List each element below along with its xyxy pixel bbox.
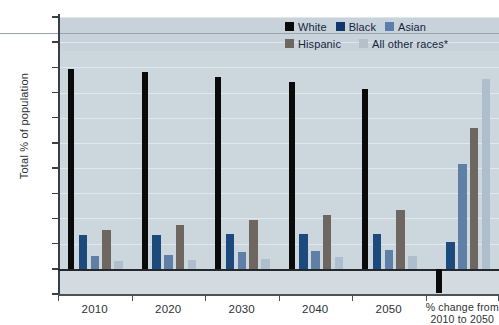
- bar-black-2010: [79, 235, 88, 269]
- bar-black-2030: [226, 234, 235, 269]
- chart-legend: White Black Asian Hispanic All other rac…: [285, 19, 495, 53]
- legend-swatch-all-other-races-icon: [359, 39, 368, 48]
- bar-all-other-races-2020: [188, 260, 197, 269]
- legend-swatch-white-icon: [285, 22, 294, 31]
- legend-label-hispanic: Hispanic: [298, 38, 341, 50]
- x-tick-mark: [132, 294, 133, 301]
- legend-item-asian: Asian: [385, 21, 426, 33]
- gridline: [58, 193, 499, 194]
- bar-asian-2030: [238, 252, 247, 268]
- x-tick-label: 2020: [132, 303, 206, 315]
- legend-item-white: White: [285, 21, 327, 33]
- x-tick-label-line: 2030: [205, 303, 279, 315]
- x-tick-mark: [58, 294, 59, 301]
- bar-white-2050: [362, 89, 368, 269]
- gridline: [58, 168, 499, 169]
- bar-black-2020: [152, 235, 161, 269]
- bar-all-other-races-2030: [261, 259, 270, 269]
- bar-black-2040: [299, 234, 308, 269]
- bar-hispanic--change-from-2010-to-2050: [470, 128, 479, 269]
- bar-asian-2040: [311, 251, 320, 269]
- x-tick-label: 2050: [352, 303, 426, 315]
- x-tick-label-line: 2010: [58, 303, 132, 315]
- bar-black-2050: [373, 234, 382, 269]
- x-tick-label-line: 2040: [279, 303, 353, 315]
- legend-swatch-asian-icon: [385, 22, 394, 31]
- bar-hispanic-2010: [102, 230, 111, 269]
- legend-item-hispanic: Hispanic: [285, 38, 341, 50]
- bar-all-other-races--change-from-2010-to-2050: [482, 79, 491, 269]
- gridline: [58, 67, 499, 68]
- x-tick-mark: [205, 294, 206, 301]
- y-axis-line: [58, 14, 60, 295]
- bar-all-other-races-2050: [408, 256, 417, 269]
- bar-hispanic-2050: [396, 210, 405, 269]
- gridline: [58, 143, 499, 144]
- legend-label-asian: Asian: [398, 21, 426, 33]
- x-tick-label: 2010: [58, 303, 132, 315]
- legend-row-2: Hispanic All other races*: [285, 36, 495, 51]
- gridline: [58, 118, 499, 119]
- legend-label-all-other-races: All other races*: [372, 38, 448, 50]
- x-tick-mark: [352, 294, 353, 301]
- bar-asian--change-from-2010-to-2050: [458, 164, 467, 269]
- x-tick-mark: [279, 294, 280, 301]
- legend-label-black: Black: [349, 21, 376, 33]
- bar-hispanic-2020: [176, 225, 185, 269]
- bar-black--change-from-2010-to-2050: [446, 242, 455, 268]
- bar-all-other-races-2040: [335, 257, 344, 268]
- gridline: [58, 93, 499, 94]
- x-tick-label-line: 2020: [132, 303, 206, 315]
- legend-item-black: Black: [336, 21, 376, 33]
- x-tick-label: % change from2010 to 2050: [426, 301, 499, 325]
- gridline: [58, 244, 499, 245]
- bar-white-2020: [142, 72, 148, 268]
- bar-white-2010: [68, 69, 74, 269]
- x-tick-label-line: 2050: [352, 303, 426, 315]
- bar-white-2030: [215, 77, 221, 268]
- bar-hispanic-2030: [249, 220, 258, 269]
- bar-white-2040: [289, 82, 295, 268]
- legend-item-all-other-races: All other races*: [359, 38, 448, 50]
- y-axis-label: Total % of population: [18, 56, 30, 196]
- x-tick-label: 2040: [279, 303, 353, 315]
- bar-hispanic-2040: [323, 215, 332, 269]
- x-tick-label: 2030: [205, 303, 279, 315]
- plot-area-negative-background: [58, 270, 499, 295]
- x-tick-label-line-2: 2010 to 2050: [426, 313, 499, 325]
- bar-all-other-races-2010: [114, 261, 123, 269]
- bar-asian-2050: [385, 250, 394, 269]
- legend-label-white: White: [298, 21, 327, 33]
- chart-figure: 1009080706050403020100-10 20102020203020…: [0, 0, 499, 325]
- bar-white--change-from-2010-to-2050: [436, 269, 442, 293]
- legend-row-1: White Black Asian: [285, 19, 495, 34]
- legend-swatch-black-icon: [336, 22, 345, 31]
- x-tick-label-line: % change from: [426, 301, 499, 313]
- bar-asian-2020: [164, 255, 173, 269]
- gridline: [58, 17, 499, 18]
- bar-asian-2010: [91, 256, 100, 269]
- legend-swatch-hispanic-icon: [285, 39, 294, 48]
- x-tick-mark: [426, 294, 427, 301]
- gridline: [58, 218, 499, 219]
- zero-baseline: [58, 269, 499, 271]
